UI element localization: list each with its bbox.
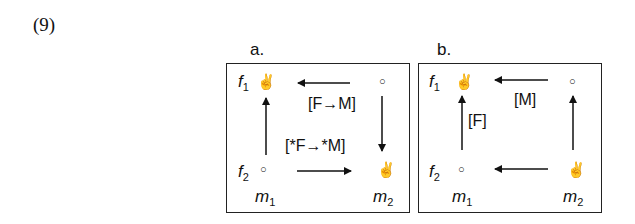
arrows-layer xyxy=(0,0,635,224)
